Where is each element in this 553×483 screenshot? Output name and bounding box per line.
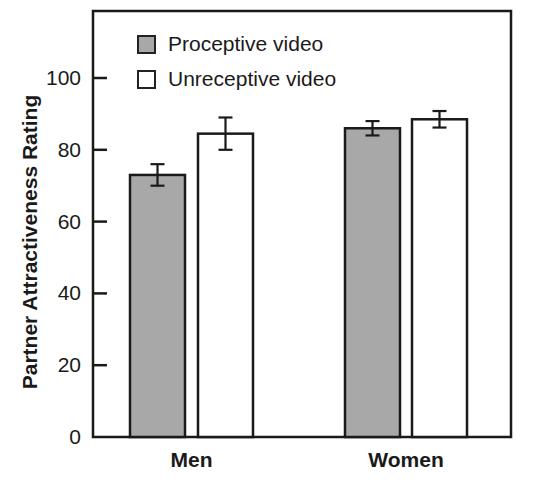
legend-swatch-icon [137, 35, 156, 54]
y-tick-label: 40 [31, 282, 81, 304]
bar [412, 119, 467, 437]
bar-chart: Partner Attractiveness Rating 0204060801… [0, 0, 553, 483]
legend-label: Unreceptive video [168, 67, 336, 91]
legend-swatch-icon [137, 70, 156, 89]
y-tick-label: 20 [31, 354, 81, 376]
y-tick-label: 60 [31, 211, 81, 233]
bar [198, 134, 253, 437]
y-tick-label: 80 [31, 139, 81, 161]
x-tick-label: Women [346, 448, 466, 472]
legend-label: Proceptive video [168, 32, 323, 56]
y-tick-label: 0 [31, 426, 81, 448]
bar [130, 175, 185, 437]
x-tick-label: Men [132, 448, 252, 472]
legend-item: Proceptive video [137, 32, 323, 56]
legend-item: Unreceptive video [137, 67, 336, 91]
bar [345, 128, 400, 437]
y-tick-label: 100 [31, 67, 81, 89]
